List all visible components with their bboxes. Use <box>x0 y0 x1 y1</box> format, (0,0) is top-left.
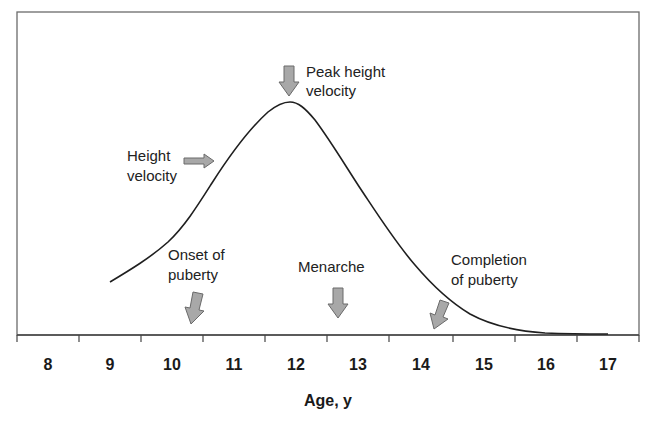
x-tick-label: 15 <box>475 356 493 373</box>
x-tick-label: 14 <box>412 356 430 373</box>
x-tick-label: 17 <box>599 356 617 373</box>
completion-arrow-icon <box>430 300 449 329</box>
height-velocity-chart: 8 9 10 11 12 13 14 15 16 17 Age, y Peak … <box>0 0 646 422</box>
onset-arrow-icon <box>185 292 204 324</box>
x-tick-label: 8 <box>44 356 53 373</box>
height-velocity-label-line1: Height <box>127 147 171 164</box>
x-tick-label: 10 <box>163 356 181 373</box>
height-velocity-arrow-icon <box>184 154 214 168</box>
x-tick-label: 12 <box>287 356 305 373</box>
completion-label-line2: of puberty <box>451 271 518 288</box>
onset-label-line1: Onset of <box>168 246 226 263</box>
x-tick-labels: 8 9 10 11 12 13 14 15 16 17 <box>44 356 617 373</box>
x-tick-label: 9 <box>106 356 115 373</box>
height-velocity-label-line2: velocity <box>127 167 178 184</box>
x-tick-label: 11 <box>226 356 243 373</box>
menarche-label: Menarche <box>298 258 365 275</box>
peak-label-line2: velocity <box>306 82 357 99</box>
plot-frame <box>17 12 639 335</box>
height-velocity-curve <box>110 102 608 334</box>
peak-label-line1: Peak height <box>306 63 386 80</box>
completion-label-line1: Completion <box>451 251 527 268</box>
x-axis-title: Age, y <box>304 392 352 409</box>
onset-label-line2: puberty <box>168 266 219 283</box>
x-axis-ticks <box>17 335 639 342</box>
x-tick-label: 13 <box>349 356 367 373</box>
peak-arrow-icon <box>279 66 299 96</box>
x-tick-label: 16 <box>537 356 555 373</box>
menarche-arrow-icon <box>328 288 348 318</box>
